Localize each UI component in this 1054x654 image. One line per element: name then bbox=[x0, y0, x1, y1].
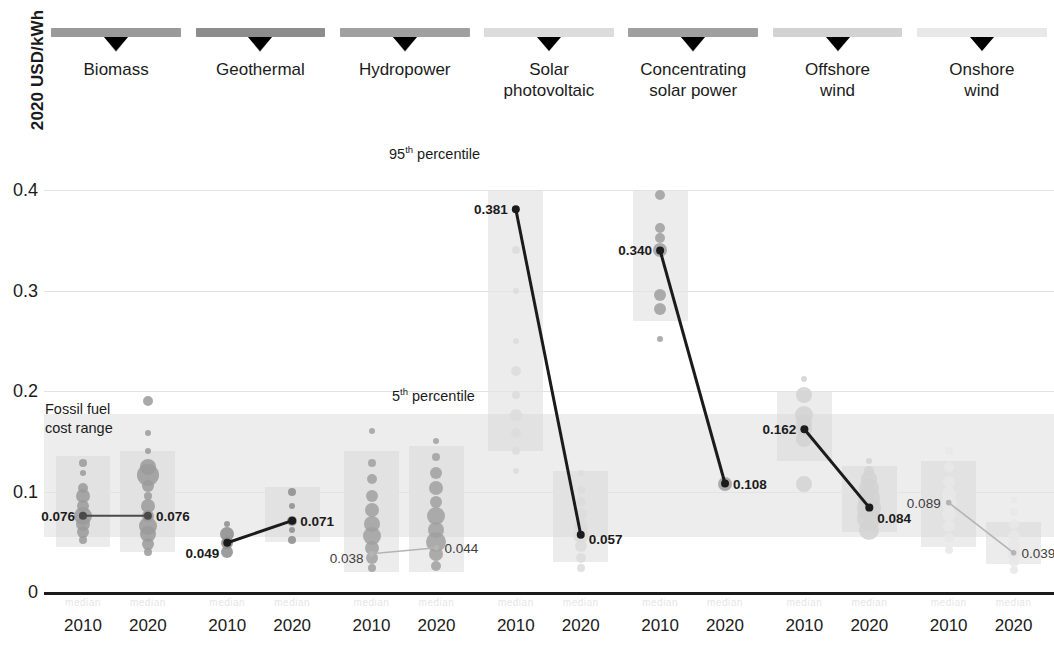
x-axis-tick-label: 2020 bbox=[418, 616, 456, 636]
technology-label: Solarphotovoltaic bbox=[484, 59, 614, 102]
technology-color-bar bbox=[484, 28, 614, 37]
x-axis-tick-label: 2010 bbox=[353, 616, 391, 636]
trend-marker bbox=[144, 512, 152, 520]
technology-header-onshore-wind: Onshorewind bbox=[917, 28, 1047, 102]
trend-line bbox=[516, 209, 581, 534]
x-axis-tick-label: 2010 bbox=[64, 616, 102, 636]
technology-pointer-icon bbox=[826, 37, 850, 52]
x-axis-tick-label: 2020 bbox=[273, 616, 311, 636]
trend-line bbox=[372, 548, 437, 554]
value-label: 0.089 bbox=[907, 495, 941, 510]
value-label: 0.108 bbox=[733, 476, 767, 491]
technology-label: Onshorewind bbox=[917, 59, 1047, 102]
annotation-5th-percentile: 5th percentile bbox=[392, 386, 475, 405]
technology-label: Biomass bbox=[51, 59, 181, 80]
x-axis-tick-label: 2020 bbox=[562, 616, 600, 636]
x-axis-tick-ghost: median bbox=[707, 597, 743, 608]
y-axis-title: 2020 USD/kWh bbox=[28, 0, 48, 160]
annotation-fossil-fuel-cost-range: Fossil fuelcost range bbox=[45, 400, 113, 437]
trend-marker bbox=[512, 205, 520, 213]
x-axis-tick-label: 2020 bbox=[850, 616, 888, 636]
technology-header-solar-photovoltaic: Solarphotovoltaic bbox=[484, 28, 614, 102]
technology-pointer-icon bbox=[248, 37, 272, 52]
x-axis-tick-ghost: median bbox=[931, 597, 967, 608]
chart-root: 2020 USD/kWh BiomassGeothermalHydropower… bbox=[0, 0, 1054, 654]
technology-pointer-icon bbox=[393, 37, 417, 52]
x-axis-tick-label: 2010 bbox=[641, 616, 679, 636]
technology-header-offshore-wind: Offshorewind bbox=[773, 28, 903, 102]
value-label: 0.044 bbox=[444, 540, 478, 555]
value-label: 0.162 bbox=[763, 422, 797, 437]
x-axis-tick-label: 2010 bbox=[930, 616, 968, 636]
trend-line bbox=[949, 503, 1014, 553]
trend-marker bbox=[577, 531, 585, 539]
trend-marker bbox=[800, 425, 808, 433]
value-label: 0.076 bbox=[156, 508, 190, 523]
x-axis-tick-label: 2010 bbox=[208, 616, 246, 636]
trend-marker bbox=[721, 480, 729, 488]
value-label: 0.038 bbox=[330, 550, 364, 565]
y-axis-tick-label: 0 bbox=[0, 582, 38, 603]
trend-marker bbox=[946, 500, 952, 506]
y-axis-tick-label: 0.4 bbox=[0, 180, 38, 201]
trend-marker bbox=[865, 504, 873, 512]
technology-color-bar bbox=[51, 28, 181, 37]
technology-color-bar bbox=[196, 28, 326, 37]
trend-marker bbox=[369, 551, 375, 557]
x-axis-tick-label: 2010 bbox=[497, 616, 535, 636]
annotation-95th-percentile: 95th percentile bbox=[389, 144, 480, 163]
technology-label-line: Biomass bbox=[51, 59, 181, 80]
x-axis-tick-label: 2020 bbox=[129, 616, 167, 636]
technology-color-bar bbox=[340, 28, 470, 37]
x-axis-tick-ghost: median bbox=[354, 597, 390, 608]
value-label: 0.057 bbox=[589, 531, 623, 546]
x-axis-tick-ghost: median bbox=[419, 597, 455, 608]
technology-pointer-icon bbox=[970, 37, 994, 52]
x-axis-tick-ghost: median bbox=[209, 597, 245, 608]
trend-marker bbox=[656, 246, 664, 254]
y-axis-tick-label: 0.1 bbox=[0, 481, 38, 502]
x-axis-tick-label: 2020 bbox=[706, 616, 744, 636]
technology-label-line: photovoltaic bbox=[484, 80, 614, 101]
technology-label: Geothermal bbox=[196, 59, 326, 80]
trend-marker bbox=[434, 545, 440, 551]
trend-lines-layer bbox=[44, 150, 1054, 593]
technology-label-line: wind bbox=[917, 80, 1047, 101]
value-label: 0.049 bbox=[185, 545, 219, 560]
technology-header-biomass: Biomass bbox=[51, 28, 181, 80]
plot-area: 0.0760.0760.0490.0710.0380.0440.3810.057… bbox=[44, 150, 1054, 593]
value-label: 0.084 bbox=[877, 510, 911, 525]
technology-label-line: wind bbox=[773, 80, 903, 101]
trend-marker bbox=[288, 517, 296, 525]
value-label: 0.039 bbox=[1022, 545, 1054, 560]
technology-pointer-icon bbox=[681, 37, 705, 52]
technology-label: Offshorewind bbox=[773, 59, 903, 102]
technology-label-line: Offshore bbox=[773, 59, 903, 80]
technology-label-line: Geothermal bbox=[196, 59, 326, 80]
y-axis-tick-label: 0.2 bbox=[0, 381, 38, 402]
technology-color-bar bbox=[628, 28, 758, 37]
technology-label-line: Hydropower bbox=[340, 59, 470, 80]
y-axis-tick-label: 0.3 bbox=[0, 280, 38, 301]
technology-header-geothermal: Geothermal bbox=[196, 28, 326, 80]
value-label: 0.381 bbox=[474, 202, 508, 217]
trend-line bbox=[804, 429, 869, 507]
x-axis-tick-label: 2020 bbox=[995, 616, 1033, 636]
technology-label-line: solar power bbox=[628, 80, 758, 101]
x-axis-tick-ghost: median bbox=[274, 597, 310, 608]
trend-marker bbox=[79, 512, 87, 520]
technology-color-bar bbox=[917, 28, 1047, 37]
x-axis-tick-ghost: median bbox=[563, 597, 599, 608]
technology-label-line: Concentrating bbox=[628, 59, 758, 80]
x-axis-tick-ghost: median bbox=[65, 597, 101, 608]
x-axis-tick-ghost: median bbox=[786, 597, 822, 608]
x-axis-tick-label: 2010 bbox=[785, 616, 823, 636]
technology-label: Hydropower bbox=[340, 59, 470, 80]
technology-header-concentrating-solar-power: Concentratingsolar power bbox=[628, 28, 758, 102]
technology-label-line: Onshore bbox=[917, 59, 1047, 80]
technology-label-line: Solar bbox=[484, 59, 614, 80]
technology-pointer-icon bbox=[104, 37, 128, 52]
trend-line bbox=[660, 250, 725, 483]
x-axis-tick-ghost: median bbox=[642, 597, 678, 608]
value-label: 0.071 bbox=[300, 513, 334, 528]
